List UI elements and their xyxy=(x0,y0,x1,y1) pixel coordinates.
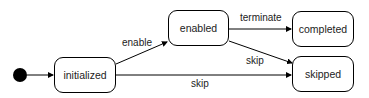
transition-label-skip-initialized: skip xyxy=(191,78,209,89)
transition-label-terminate: terminate xyxy=(240,12,282,23)
state-enabled: enabled xyxy=(168,10,229,46)
state-label: initialized xyxy=(63,69,106,81)
state-label: enabled xyxy=(180,22,217,34)
initial-state-dot xyxy=(13,68,27,82)
state-completed: completed xyxy=(292,11,354,47)
transition-label-skip-enabled: skip xyxy=(246,55,264,66)
state-label: completed xyxy=(299,23,347,35)
state-skipped: skipped xyxy=(292,56,354,92)
transition-label-enable: enable xyxy=(122,37,152,48)
state-label: skipped xyxy=(305,68,341,80)
state-initialized: initialized xyxy=(54,57,116,93)
